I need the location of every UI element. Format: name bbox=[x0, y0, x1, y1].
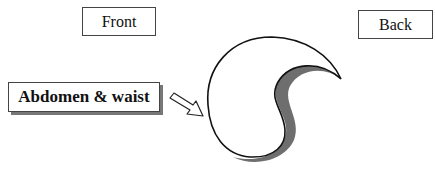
diagram-canvas bbox=[0, 0, 435, 174]
arrow-icon bbox=[170, 93, 203, 116]
body-crescent-shape bbox=[208, 37, 341, 162]
